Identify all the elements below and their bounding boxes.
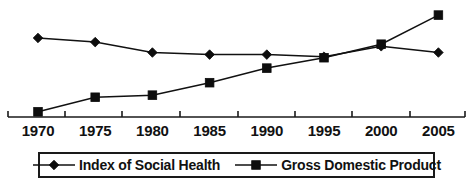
diamond-marker-icon bbox=[205, 50, 215, 60]
square-marker-icon bbox=[377, 40, 386, 49]
square-marker-icon bbox=[34, 108, 43, 117]
x-axis-tick-labels: 19701975198019851990199520002005 bbox=[0, 121, 473, 143]
x-axis-tick-label: 1975 bbox=[63, 121, 127, 140]
legend-label: Index of Social Health bbox=[79, 157, 220, 173]
diamond-marker-icon bbox=[33, 33, 43, 43]
data-series-layer bbox=[33, 11, 443, 116]
legend-item[interactable]: Index of Social Health bbox=[32, 157, 220, 173]
legend-marker-key bbox=[234, 158, 278, 172]
data-series bbox=[34, 11, 443, 116]
square-marker-icon bbox=[205, 78, 214, 87]
diamond-marker-icon bbox=[148, 48, 158, 58]
x-axis-tick-label: 1995 bbox=[292, 121, 356, 140]
x-axis-tick-label: 2000 bbox=[349, 121, 413, 140]
diamond-marker-icon bbox=[434, 48, 444, 58]
x-axis-tick-label: 1990 bbox=[235, 121, 299, 140]
x-axis-tick-label: 1970 bbox=[6, 121, 70, 140]
square-marker-icon bbox=[252, 161, 261, 170]
diamond-marker-icon bbox=[49, 160, 59, 170]
x-axis-tick-label: 1980 bbox=[120, 121, 184, 140]
x-axis-ticks bbox=[8, 111, 465, 117]
square-marker-icon bbox=[263, 64, 272, 73]
diamond-marker-icon bbox=[262, 50, 272, 60]
legend-marker-key bbox=[32, 158, 76, 172]
square-marker-icon bbox=[434, 11, 443, 20]
square-marker-icon bbox=[148, 91, 157, 100]
x-axis-tick-label: 2005 bbox=[406, 121, 470, 140]
legend-label: Gross Domestic Product bbox=[281, 157, 441, 173]
legend-item[interactable]: Gross Domestic Product bbox=[234, 157, 441, 173]
line-chart-figure: 19701975198019851990199520002005 Index o… bbox=[0, 0, 473, 184]
square-marker-icon bbox=[91, 93, 100, 102]
chart-legend: Index of Social HealthGross Domestic Pro… bbox=[38, 152, 435, 178]
diamond-marker-icon bbox=[90, 37, 100, 47]
square-marker-icon bbox=[320, 53, 329, 62]
x-axis-tick-label: 1985 bbox=[178, 121, 242, 140]
